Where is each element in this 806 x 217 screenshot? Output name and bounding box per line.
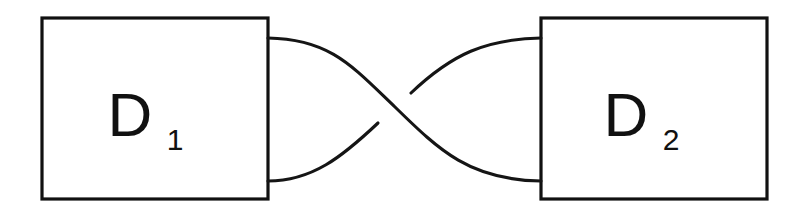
tangle-box-d2-rect: [541, 18, 767, 199]
over-strand: [268, 38, 541, 181]
tangle-box-d2-label-subscript: 2: [663, 123, 680, 156]
tangle-box-d1: D 1: [42, 18, 268, 199]
tangle-box-d1-rect: [42, 18, 268, 199]
tangle-crossing-svg: D 1 D 2: [0, 0, 806, 217]
tangle-box-d1-label: D: [108, 80, 153, 149]
tangle-box-d2: D 2: [541, 18, 767, 199]
under-strand-lower-left: [268, 123, 378, 181]
tangle-box-d1-label-subscript: 1: [167, 123, 184, 156]
under-strand-upper-right: [411, 38, 541, 93]
tangle-diagram-figure: D 1 D 2: [0, 0, 806, 217]
tangle-box-d2-label: D: [604, 80, 649, 149]
